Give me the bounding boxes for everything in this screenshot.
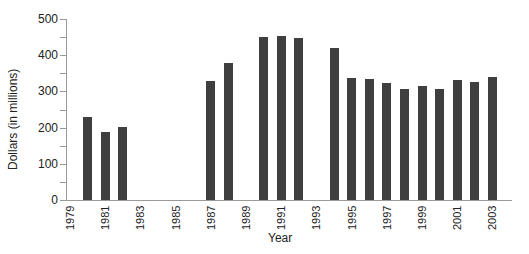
- y-tick: [60, 128, 66, 129]
- y-tick: [60, 37, 66, 38]
- x-axis-title: Year: [268, 231, 292, 245]
- bar-1995: [347, 78, 356, 200]
- y-tick-label: 0: [28, 194, 58, 206]
- x-tick-label: 1991: [275, 206, 287, 230]
- bar-1981: [101, 132, 110, 200]
- bar-1987: [206, 81, 215, 200]
- bar-2001: [453, 80, 462, 200]
- x-tick-label: 2003: [486, 206, 498, 230]
- y-tick: [60, 200, 66, 201]
- y-tick-label: 500: [28, 13, 58, 25]
- bar-1998: [400, 89, 409, 200]
- x-axis-line: [66, 200, 512, 201]
- bar-1999: [418, 86, 427, 200]
- y-tick-label: 400: [28, 49, 58, 61]
- x-tick-label: 1989: [240, 206, 252, 230]
- bar-1982: [118, 127, 127, 200]
- x-tick-label: 1997: [381, 206, 393, 230]
- y-tick: [60, 146, 66, 147]
- bar-1997: [382, 83, 391, 200]
- x-tick-label: 1981: [99, 206, 111, 230]
- x-tick-label: 1995: [346, 206, 358, 230]
- y-tick: [60, 91, 66, 92]
- x-tick-label: 1993: [310, 206, 322, 230]
- y-tick: [60, 182, 66, 183]
- bar-1992: [294, 38, 303, 200]
- y-axis-line: [66, 19, 67, 201]
- bar-1994: [330, 48, 339, 200]
- y-tick: [60, 19, 66, 20]
- bar-2002: [470, 82, 479, 200]
- y-tick: [60, 55, 66, 56]
- bar-1988: [224, 63, 233, 200]
- bar-1991: [277, 36, 286, 200]
- bar-1990: [259, 37, 268, 200]
- x-tick-label: 2001: [451, 206, 463, 230]
- x-tick-label: 1987: [205, 206, 217, 230]
- bar-2000: [435, 89, 444, 200]
- y-tick: [60, 164, 66, 165]
- y-tick-label: 300: [28, 85, 58, 97]
- y-tick: [60, 73, 66, 74]
- x-tick-label: 1979: [64, 206, 76, 230]
- bar-chart: Dollars (in millions) Year 0100200300400…: [0, 0, 529, 254]
- bar-1980: [83, 117, 92, 200]
- y-tick-label: 200: [28, 122, 58, 134]
- bar-2003: [488, 77, 497, 200]
- x-tick-label: 1999: [416, 206, 428, 230]
- y-axis-title: Dollars (in millions): [6, 69, 20, 170]
- y-tick: [60, 110, 66, 111]
- x-tick-label: 1983: [134, 206, 146, 230]
- y-tick-label: 100: [28, 158, 58, 170]
- bar-1996: [365, 79, 374, 200]
- x-tick-label: 1985: [170, 206, 182, 230]
